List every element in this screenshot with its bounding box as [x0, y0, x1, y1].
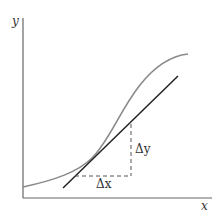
- tangent-diagram: y x Δx Δy: [0, 0, 218, 218]
- y-axis-label: y: [11, 14, 19, 28]
- tangent-line: [63, 76, 178, 188]
- delta-x-label: Δx: [96, 177, 112, 191]
- x-axis-label: x: [201, 199, 208, 213]
- curve: [23, 54, 188, 187]
- delta-y-label: Δy: [135, 142, 151, 156]
